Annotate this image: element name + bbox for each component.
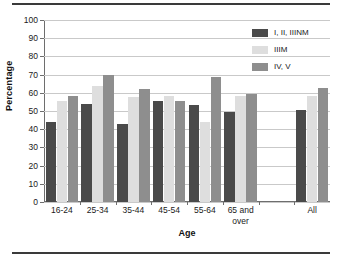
bar	[81, 104, 92, 202]
bar	[103, 75, 114, 202]
category-label: 16-24	[44, 205, 80, 216]
y-tick-label: 30	[29, 142, 38, 152]
bar	[139, 89, 150, 202]
legend-item: IV, V	[252, 60, 338, 73]
category-axis-labels: 16-2425-3435-4445-5455-6465 and overAll	[44, 205, 330, 231]
y-tick-label: 60	[29, 88, 38, 98]
chart-legend: I, II, IIINMIIIMIV, V	[252, 26, 338, 77]
bar	[296, 110, 307, 202]
bar	[117, 124, 128, 202]
bar-group	[46, 20, 79, 202]
y-tick-label: 0	[33, 197, 38, 207]
bar-group	[153, 20, 186, 202]
legend-swatch-icon	[252, 29, 268, 37]
bar	[164, 96, 175, 202]
legend-item: I, II, IIINM	[252, 26, 338, 39]
bar	[211, 77, 222, 202]
bar	[318, 88, 329, 202]
bar	[246, 94, 257, 202]
y-tick-label: 80	[29, 51, 38, 61]
category-label: 55-64	[187, 205, 223, 216]
bar	[68, 96, 79, 202]
y-tick-label: 10	[29, 179, 38, 189]
bar	[57, 101, 68, 202]
top-horizontal-rule	[12, 3, 330, 5]
y-tick-label: 20	[29, 161, 38, 171]
bar	[235, 96, 246, 202]
y-tick-label: 100	[24, 15, 38, 25]
bar	[200, 122, 211, 202]
bar-group	[189, 20, 222, 202]
category-label: 25-34	[80, 205, 116, 216]
legend-label: IV, V	[274, 62, 291, 71]
y-axis-title: Percentage	[4, 60, 14, 111]
category-label: 35-44	[116, 205, 152, 216]
bar	[128, 97, 139, 202]
bottom-horizontal-rule	[12, 252, 330, 254]
bar	[153, 101, 164, 202]
category-label: 65 and over	[223, 205, 259, 226]
bar	[92, 86, 103, 202]
category-label: All	[294, 205, 330, 216]
legend-swatch-icon	[252, 46, 268, 54]
y-tick-label: 40	[29, 124, 38, 134]
bar	[189, 105, 200, 202]
bar	[224, 112, 235, 202]
y-tick-mark	[40, 202, 44, 203]
legend-label: IIIM	[274, 45, 287, 54]
y-tick-label: 70	[29, 70, 38, 80]
y-tick-label: 90	[29, 33, 38, 43]
bar-group	[81, 20, 114, 202]
y-tick-label: 50	[29, 106, 38, 116]
legend-label: I, II, IIINM	[274, 28, 309, 37]
bar-chart-figure: Percentage Age 0102030405060708090100 16…	[0, 0, 342, 264]
legend-item: IIIM	[252, 43, 338, 56]
bar	[46, 122, 57, 202]
bar	[175, 101, 186, 202]
legend-swatch-icon	[252, 63, 268, 71]
bar	[307, 96, 318, 202]
bar-group	[117, 20, 150, 202]
category-label: 45-54	[151, 205, 187, 216]
